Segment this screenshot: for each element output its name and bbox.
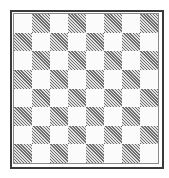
square-g6[interactable] (122, 51, 140, 70)
square-h3[interactable] (140, 107, 158, 126)
square-c6[interactable] (50, 51, 68, 70)
square-b6[interactable] (32, 51, 50, 70)
square-e1[interactable] (86, 144, 104, 163)
square-h6[interactable] (140, 51, 158, 70)
square-c8[interactable] (50, 14, 68, 33)
square-a3[interactable] (14, 107, 32, 126)
square-e8[interactable] (86, 14, 104, 33)
square-c2[interactable] (50, 126, 68, 145)
square-h4[interactable] (140, 89, 158, 108)
chessboard (10, 10, 164, 169)
square-a4[interactable] (14, 89, 32, 108)
square-d2[interactable] (68, 126, 86, 145)
square-g3[interactable] (122, 107, 140, 126)
square-h7[interactable] (140, 33, 158, 52)
square-c1[interactable] (50, 144, 68, 163)
square-c7[interactable] (50, 33, 68, 52)
square-a5[interactable] (14, 70, 32, 89)
square-g1[interactable] (122, 144, 140, 163)
square-h2[interactable] (140, 126, 158, 145)
square-b3[interactable] (32, 107, 50, 126)
square-f3[interactable] (104, 107, 122, 126)
square-c4[interactable] (50, 89, 68, 108)
square-f6[interactable] (104, 51, 122, 70)
square-f4[interactable] (104, 89, 122, 108)
square-e2[interactable] (86, 126, 104, 145)
square-d1[interactable] (68, 144, 86, 163)
square-d5[interactable] (68, 70, 86, 89)
square-e4[interactable] (86, 89, 104, 108)
square-a2[interactable] (14, 126, 32, 145)
square-e3[interactable] (86, 107, 104, 126)
square-h1[interactable] (140, 144, 158, 163)
square-f7[interactable] (104, 33, 122, 52)
square-g8[interactable] (122, 14, 140, 33)
square-b1[interactable] (32, 144, 50, 163)
square-d6[interactable] (68, 51, 86, 70)
square-b5[interactable] (32, 70, 50, 89)
square-e6[interactable] (86, 51, 104, 70)
square-d4[interactable] (68, 89, 86, 108)
square-f2[interactable] (104, 126, 122, 145)
square-d7[interactable] (68, 33, 86, 52)
square-h8[interactable] (140, 14, 158, 33)
square-c5[interactable] (50, 70, 68, 89)
square-e7[interactable] (86, 33, 104, 52)
square-g2[interactable] (122, 126, 140, 145)
square-g4[interactable] (122, 89, 140, 108)
square-a1[interactable] (14, 144, 32, 163)
square-e5[interactable] (86, 70, 104, 89)
square-a7[interactable] (14, 33, 32, 52)
square-a6[interactable] (14, 51, 32, 70)
chessboard-grid (13, 13, 159, 164)
square-h5[interactable] (140, 70, 158, 89)
square-b8[interactable] (32, 14, 50, 33)
square-d3[interactable] (68, 107, 86, 126)
square-b2[interactable] (32, 126, 50, 145)
square-f1[interactable] (104, 144, 122, 163)
square-b7[interactable] (32, 33, 50, 52)
square-g7[interactable] (122, 33, 140, 52)
square-c3[interactable] (50, 107, 68, 126)
square-f8[interactable] (104, 14, 122, 33)
square-d8[interactable] (68, 14, 86, 33)
square-a8[interactable] (14, 14, 32, 33)
square-g5[interactable] (122, 70, 140, 89)
square-f5[interactable] (104, 70, 122, 89)
square-b4[interactable] (32, 89, 50, 108)
